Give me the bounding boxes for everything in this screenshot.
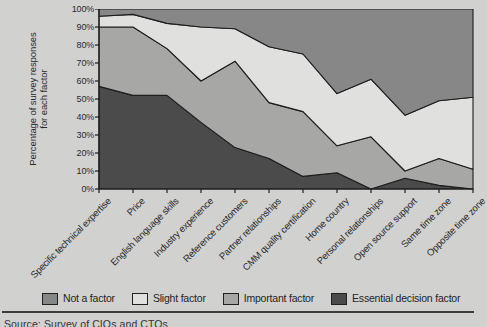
y-tick-label-90: 90%: [54, 22, 94, 33]
legend-swatch-not_a_factor: [42, 293, 58, 305]
y-axis-title-line1: Percentage of survey responses: [27, 32, 38, 165]
legend-label: Slight factor: [153, 292, 206, 305]
y-tick-label-70: 70%: [54, 58, 94, 69]
y-tick-label-100: 100%: [54, 4, 94, 15]
x-category-label: Price: [125, 196, 147, 218]
legend-item-important: Important factor: [223, 292, 314, 305]
y-tick-label-80: 80%: [54, 40, 94, 51]
x-category-label: Partner relationships: [217, 196, 283, 262]
x-category-label: Specific technical expertise: [29, 196, 113, 280]
y-tick-label-0: 0%: [54, 184, 94, 195]
chart-legend: Not a factorSlight factorImportant facto…: [42, 292, 472, 305]
legend-item-slight: Slight factor: [132, 292, 206, 305]
y-tick-label-20: 20%: [54, 148, 94, 159]
legend-swatch-important: [223, 293, 239, 305]
legend-item-not_a_factor: Not a factor: [42, 292, 115, 305]
stacked-area-chart: [94, 9, 474, 194]
footer-divider: [2, 311, 474, 313]
y-axis-title: Percentage of survey responses for each …: [27, 32, 49, 165]
legend-label: Essential decision factor: [352, 292, 460, 305]
legend-item-essential: Essential decision factor: [331, 292, 460, 305]
y-tick-label-10: 10%: [54, 166, 94, 177]
source-note: Source: Survey of CIOs and CTOs: [4, 318, 474, 327]
y-tick-label-40: 40%: [54, 112, 94, 123]
legend-label: Not a factor: [63, 292, 115, 305]
legend-label: Important factor: [244, 292, 314, 305]
y-tick-label-50: 50%: [54, 94, 94, 105]
y-tick-label-30: 30%: [54, 130, 94, 141]
legend-swatch-essential: [331, 293, 347, 305]
y-axis-title-line2: for each factor: [38, 32, 49, 165]
legend-swatch-slight: [132, 293, 148, 305]
y-tick-label-60: 60%: [54, 76, 94, 87]
